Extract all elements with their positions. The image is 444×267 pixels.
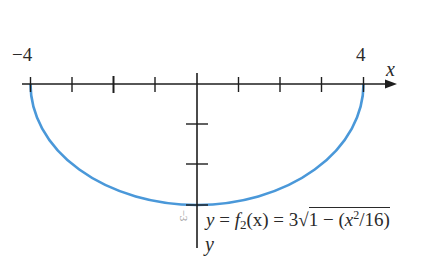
curve-equation: y = f2(x) = 3√1 − (x2/16) (206, 209, 390, 231)
radicand-post: /16) (359, 209, 390, 230)
function-graph: −4 4 x y −3 y = f2(x) = 3√1 − (x2/16) (0, 0, 444, 267)
x-tick-label-max: 4 (356, 45, 366, 64)
y-axis-label: y (205, 234, 214, 254)
x-tick-label-min: −4 (12, 45, 32, 64)
x-axis-label: x (386, 59, 395, 79)
radicand: 1 − (x2/16) (309, 207, 390, 230)
radicand-pre: 1 − ( (309, 209, 345, 230)
x-axis-arrow-icon (385, 80, 397, 89)
equation-func-arg: (x) (246, 209, 268, 230)
y-tick-label-faint: −3 (178, 210, 189, 222)
equation-eq1: = (214, 209, 234, 230)
equation-eq2: = 3 (269, 209, 299, 230)
sqrt-icon: √ (298, 209, 308, 230)
radicand-var: x (345, 209, 353, 230)
